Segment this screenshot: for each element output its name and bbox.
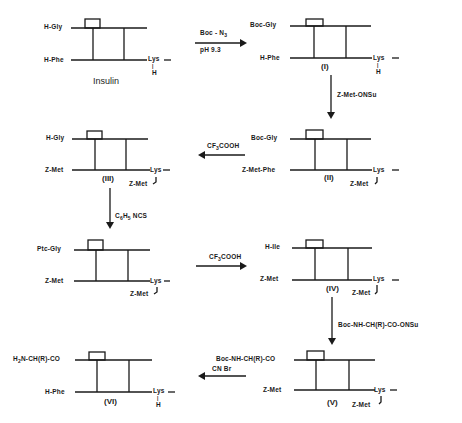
- III-caption: (III): [102, 174, 114, 183]
- reaction-condition-ph: pH 9.3: [200, 46, 221, 53]
- reagent-c6h5ncs: C6H5 NCS: [115, 212, 147, 221]
- II-bottom-chain-label: Z-Met-Phe: [242, 166, 275, 173]
- ptc-lys-label: Lys: [150, 277, 162, 284]
- ptc-top-chain-label: Ptc-Gly: [37, 245, 61, 252]
- structure-V-lines: [294, 351, 397, 404]
- insulin-top-chain-label: H-Gly: [44, 23, 62, 30]
- structure-II-lines: [290, 130, 399, 184]
- insulin-lys-label: Lys: [148, 55, 160, 62]
- insulin-bottom-chain-label: H-Phe: [44, 56, 64, 63]
- V-lys-substituent: Z-Met: [352, 401, 370, 408]
- IV-lys-substituent: Z-Met: [352, 289, 370, 296]
- reagent-cnbr: CN Br: [212, 365, 231, 372]
- structure-insulin-lines: [71, 19, 171, 60]
- reagent-boc-aa-onsu: Boc-NH-CH(R)-CO-ONSu: [338, 321, 419, 328]
- I-caption: (I): [321, 62, 329, 71]
- VI-lys-label: Lys: [153, 387, 165, 394]
- arrowhead-right: [240, 39, 247, 47]
- arrowhead-down: [327, 112, 335, 119]
- IV-caption: (IV): [326, 284, 339, 293]
- VI-top-chain-label: H2N-CH(R)-CO: [13, 355, 60, 364]
- V-caption: (V): [327, 398, 338, 407]
- reagent-cf3cooh: CF3COOH: [207, 142, 239, 151]
- reagent-cf3cooh-2: CF3COOH: [209, 253, 241, 262]
- reagent-boc-n3: Boc - N3: [200, 29, 227, 38]
- I-lys-substituent: H: [376, 68, 381, 75]
- IV-top-chain-label: H-Ile: [265, 243, 280, 250]
- I-lys-label: Lys: [373, 54, 385, 61]
- structure-ptc-lines: [74, 240, 170, 294]
- insulin-caption: Insulin: [93, 76, 119, 86]
- insulin-lys-substituent: H: [152, 69, 157, 76]
- III-bottom-chain-label: Z-Met: [45, 166, 63, 173]
- V-top-chain-label: Boc-NH-CH(R)-CO: [216, 355, 275, 362]
- arrowhead-down: [106, 222, 114, 229]
- IV-bottom-chain-label: Z-Met: [260, 275, 278, 282]
- II-lys-substituent: Z-Met: [350, 180, 368, 187]
- VI-lys-substituent: H: [156, 401, 161, 408]
- IV-lys-label: Lys: [373, 275, 385, 282]
- reagent-z-met-onsu: Z-Met-ONSu: [337, 91, 377, 98]
- III-top-chain-label: H-Gly: [46, 134, 64, 141]
- ptc-lys-substituent: Z-Met: [130, 290, 148, 297]
- arrowhead-left: [198, 151, 205, 159]
- arrowhead-down: [328, 338, 336, 345]
- arrowhead-right: [240, 262, 247, 270]
- arrowhead-left: [198, 372, 205, 380]
- structure-I-lines: [290, 19, 399, 58]
- II-caption: (II): [324, 173, 334, 182]
- V-lys-label: Lys: [374, 386, 386, 393]
- V-bottom-chain-label: Z-Met: [263, 386, 281, 393]
- I-bottom-chain-label: H-Phe: [260, 54, 280, 61]
- III-lys-substituent: Z-Met: [129, 180, 147, 187]
- II-lys-label: Lys: [373, 166, 385, 173]
- VI-bottom-chain-label: H-Phe: [45, 388, 65, 395]
- structure-VI-lines: [75, 352, 175, 392]
- II-top-chain-label: Boc-Gly: [251, 134, 277, 141]
- ptc-bottom-chain-label: Z-Met: [45, 277, 63, 284]
- I-top-chain-label: Boc-Gly: [250, 21, 276, 28]
- structure-III-lines: [72, 131, 170, 184]
- III-lys-label: Lys: [150, 166, 162, 173]
- VI-caption: (VI): [104, 397, 117, 406]
- structure-IV-lines: [292, 240, 399, 294]
